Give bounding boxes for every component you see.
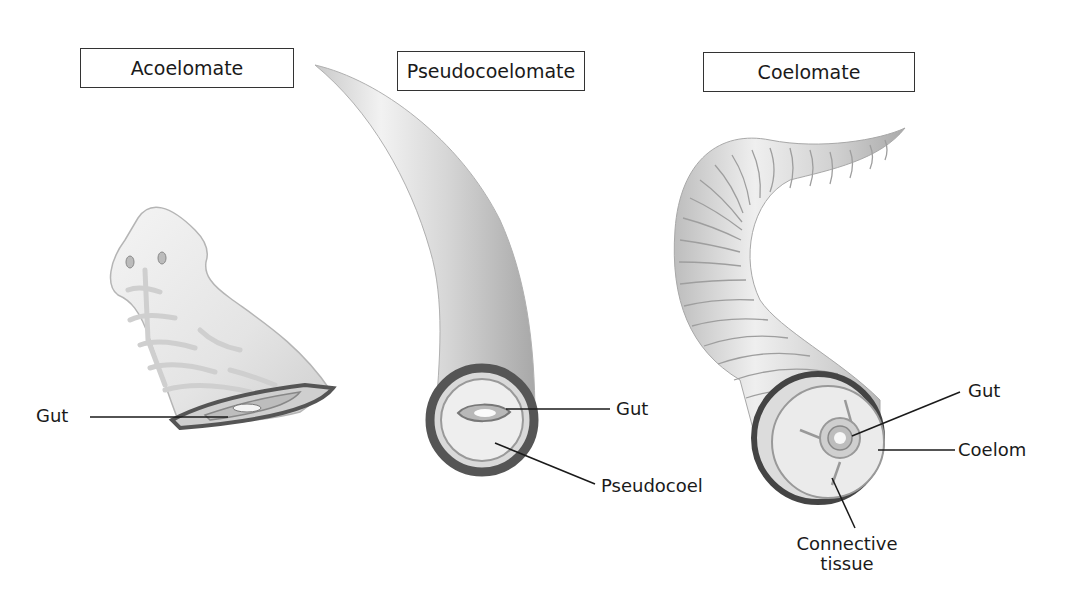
acoelomate-title: Acoelomate	[80, 48, 294, 88]
roundworm-drawing	[315, 65, 535, 472]
coelomate-gut-label: Gut	[968, 381, 1000, 401]
flatworm-drawing	[111, 207, 333, 428]
pseudocoelomate-pseudocoel-label: Pseudocoel	[601, 476, 703, 496]
acoelomate-gut-label: Gut	[36, 406, 68, 426]
earthworm-drawing	[674, 128, 905, 502]
connective-tissue-line2: tissue	[792, 554, 902, 574]
pseudocoelomate-gut-label: Gut	[616, 399, 648, 419]
coelomate-coelom-label: Coelom	[958, 440, 1026, 460]
pseudocoelomate-title: Pseudocoelomate	[397, 51, 585, 91]
coelomate-connective-tissue-label: Connective tissue	[792, 534, 902, 574]
coelomate-title: Coelomate	[703, 52, 915, 92]
connective-tissue-line1: Connective	[792, 534, 902, 554]
